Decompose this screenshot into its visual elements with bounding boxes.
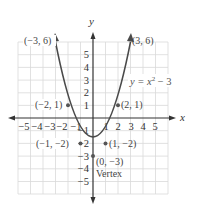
y-tick: 3: [84, 75, 89, 86]
y-tick: 2: [84, 87, 89, 98]
arrow-down-icon: [91, 197, 96, 204]
arrow-left-icon: [8, 116, 15, 121]
label-vertex-point: (0, −3): [96, 156, 123, 168]
label-m1-m2: (−1, −2): [36, 138, 69, 150]
y-tick: 4: [84, 62, 90, 73]
y-tick: −5: [78, 176, 89, 187]
point-2-1: [116, 103, 120, 107]
arrow-up-icon: [91, 32, 96, 39]
y-tick: 1: [84, 100, 89, 111]
x-tick: −5: [18, 121, 29, 132]
x-axis: [8, 116, 176, 121]
x-axis-label: x: [179, 111, 185, 123]
label-3-6: (3, 6): [132, 35, 154, 47]
y-tick: −3: [78, 151, 89, 162]
vertex-label: Vertex: [96, 168, 122, 179]
x-tick: −2: [56, 121, 67, 132]
x-tick: 2: [115, 121, 120, 132]
point-m1-m2: [79, 141, 83, 145]
y-tick: 5: [84, 49, 89, 60]
y-tick: −4: [78, 163, 90, 174]
point-vertex: [91, 154, 95, 158]
x-tick: 4: [140, 121, 146, 132]
x-tick: 3: [128, 121, 133, 132]
parabola-graph: x y −5 −4 −3 −2 −1 1 2 3 4 5 5 4 3 2 1 −…: [0, 0, 197, 213]
label-m3-6: (−3, 6): [24, 35, 51, 47]
x-tick: 5: [152, 121, 157, 132]
label-2-1: (2, 1): [121, 99, 143, 111]
equation-label: y = x2 − 3: [129, 75, 172, 87]
x-tick: −4: [31, 121, 43, 132]
point-m2-1: [66, 103, 70, 107]
equation-main: y = x: [129, 76, 152, 87]
point-1-m2: [104, 141, 108, 145]
label-m2-1: (−2, 1): [35, 99, 62, 111]
y-axis-label: y: [88, 15, 94, 27]
x-tick: −3: [44, 121, 55, 132]
equation-rest: − 3: [155, 76, 171, 87]
arrow-right-icon: [169, 116, 176, 121]
label-1-m2: (1, −2): [109, 138, 136, 150]
